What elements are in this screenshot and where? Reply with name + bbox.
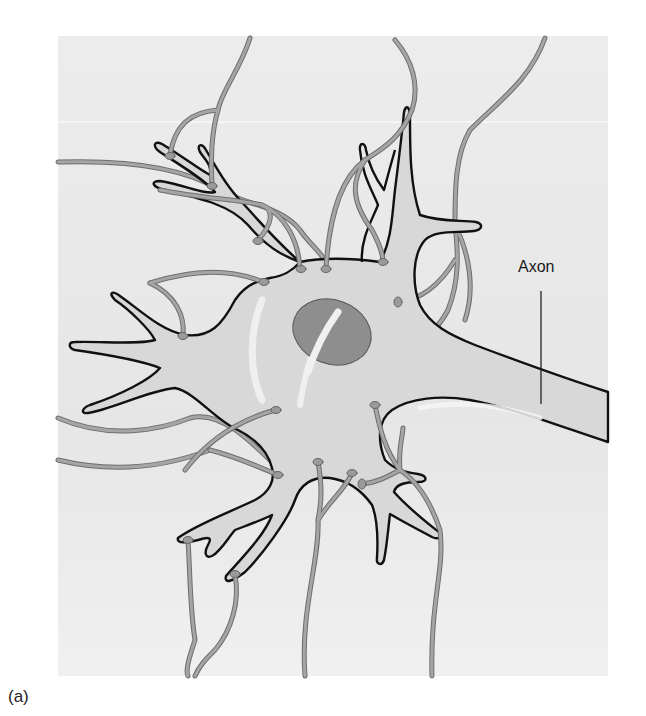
neuron-figure: Axon (a) <box>0 0 646 716</box>
axon-label: Axon <box>518 258 554 276</box>
neuron-diagram <box>0 0 646 716</box>
panel-label: (a) <box>8 687 29 707</box>
